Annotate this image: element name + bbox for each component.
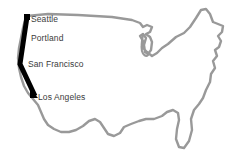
city-label-los-angeles: Los Angeles (38, 92, 85, 102)
city-label-san-francisco: San Francisco (28, 59, 84, 69)
seattle-route-marker (24, 14, 30, 20)
city-label-seattle: Seattle (31, 14, 58, 24)
us-outline-path (18, 9, 223, 148)
us-map-svg (0, 0, 243, 166)
us-map-figure: Seattle Portland San Francisco Los Angel… (0, 0, 243, 166)
city-label-portland: Portland (31, 33, 63, 43)
